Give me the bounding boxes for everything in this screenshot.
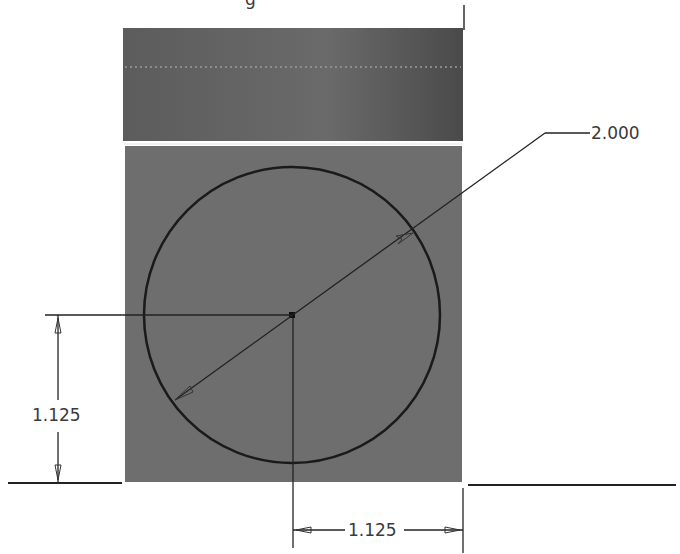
diameter-dimension-label[interactable]: 2.000 [591,123,640,143]
cad-sketch-canvas[interactable]: g 2.000 1.125 1.125 [0,0,680,554]
title-fragment: g [245,0,256,9]
horizontal-dimension-label[interactable]: 1.125 [348,520,397,540]
vertical-dimension-label[interactable]: 1.125 [32,405,81,425]
upper-face[interactable] [123,28,463,141]
